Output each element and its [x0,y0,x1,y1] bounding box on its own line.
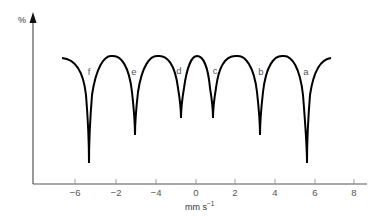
svg-text:4: 4 [272,187,277,198]
x-tick-labels: −6 −2 −4 0 2 4 6 8 [70,187,357,198]
x-axis-label: mm s−1 [185,200,215,212]
peak-label-f: f [88,66,91,77]
svg-text:−2: −2 [111,187,122,198]
peak-label-c: c [213,65,218,76]
svg-text:2: 2 [232,187,237,198]
peak-labels: f e d c b a [88,65,310,77]
y-axis-label: % [18,15,26,25]
spectrum-curve [62,56,331,163]
x-ticks [75,179,354,184]
svg-text:−4: −4 [151,187,162,198]
svg-text:−6: −6 [70,187,81,198]
svg-text:8: 8 [351,187,356,198]
svg-text:0: 0 [193,187,198,198]
peak-label-e: e [131,66,136,77]
mossbauer-spectrum-chart: % −6 −2 −4 0 2 4 6 8 mm s−1 f e d c b a [0,0,384,216]
y-axis-arrow-icon [30,12,37,23]
peak-label-b: b [258,66,263,77]
peak-label-a: a [303,66,309,77]
peak-label-d: d [176,65,181,76]
svg-text:6: 6 [312,187,317,198]
